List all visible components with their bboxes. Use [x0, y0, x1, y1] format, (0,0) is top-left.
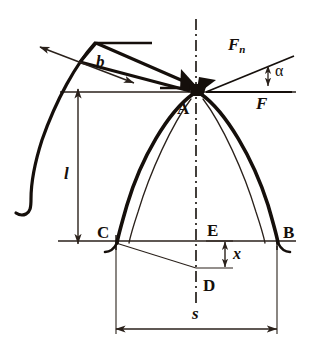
diagram-canvas — [0, 0, 321, 357]
label-dimension-l: l — [64, 165, 69, 182]
bowstring-arcs — [129, 99, 265, 243]
label-point-c: C — [97, 224, 109, 241]
label-dimension-x: x — [233, 246, 241, 262]
label-force-normal: Fn — [228, 36, 245, 55]
label-force-normal-subscript: n — [239, 43, 245, 55]
bow-limb-left-tip-curl — [105, 243, 117, 252]
label-point-a: A — [177, 100, 189, 117]
label-angle-alpha: α — [275, 63, 283, 79]
label-point-e: E — [207, 222, 218, 239]
chord-c-to-d — [116, 243, 196, 268]
relaxed-limb-outline — [16, 43, 95, 215]
bow-limb-right-tip-curl — [278, 243, 290, 252]
relaxed-limb-curve — [16, 43, 95, 215]
label-dimension-s: s — [192, 305, 199, 322]
label-point-b: B — [283, 224, 294, 241]
label-point-d: D — [203, 277, 215, 294]
label-force-f: F — [256, 95, 267, 112]
bow-force-diagram: A B C D E b l s x Fn F α — [0, 0, 321, 357]
label-dimension-b: b — [96, 53, 105, 70]
label-force-normal-base: F — [228, 35, 239, 54]
construction-lines — [58, 92, 296, 334]
band-cap-left — [80, 43, 96, 62]
nock-point-blob — [189, 84, 207, 96]
